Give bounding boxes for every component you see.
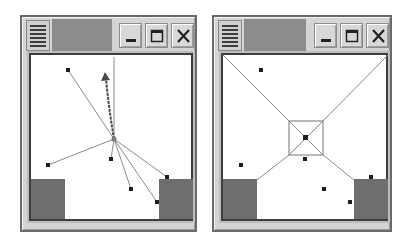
minimize-button[interactable] xyxy=(314,23,337,48)
center-point[interactable] xyxy=(303,135,308,140)
obstacle-block-right xyxy=(159,179,193,219)
minimize-icon xyxy=(120,24,143,49)
window-title[interactable] xyxy=(244,19,306,52)
title-bar[interactable] xyxy=(25,19,192,52)
data-point[interactable] xyxy=(165,175,169,179)
link-line xyxy=(68,70,114,139)
menu-line xyxy=(30,45,46,47)
arrow-head-icon xyxy=(101,72,110,81)
close-icon xyxy=(172,24,195,49)
minimize-icon xyxy=(315,24,338,49)
menu-line xyxy=(222,45,238,47)
window-menu-button[interactable] xyxy=(26,20,50,51)
close-button[interactable] xyxy=(366,23,389,48)
data-point[interactable] xyxy=(46,163,50,167)
menu-lines-icon xyxy=(30,25,46,27)
maximize-icon xyxy=(341,24,364,49)
menu-line xyxy=(30,29,46,31)
menu-line xyxy=(222,33,238,35)
link-line xyxy=(114,139,167,177)
window-title[interactable] xyxy=(52,19,112,52)
data-point[interactable] xyxy=(322,187,326,191)
menu-lines-icon xyxy=(222,25,238,27)
arrow-line xyxy=(106,79,114,139)
menu-line xyxy=(222,41,238,43)
data-point[interactable] xyxy=(109,157,113,161)
data-point[interactable] xyxy=(129,187,133,191)
link-line xyxy=(114,139,157,202)
close-button[interactable] xyxy=(171,23,194,48)
canvas-area[interactable] xyxy=(221,53,388,221)
menu-line xyxy=(222,37,238,39)
perspective-line xyxy=(257,155,289,180)
minimize-button[interactable] xyxy=(119,23,142,48)
perspective-line xyxy=(323,55,388,121)
hub-point[interactable] xyxy=(112,137,117,142)
focus-view[interactable] xyxy=(223,55,390,223)
close-icon xyxy=(367,24,390,49)
window-menu-button[interactable] xyxy=(218,20,242,51)
link-line xyxy=(48,139,114,165)
data-point[interactable] xyxy=(66,68,70,72)
data-point[interactable] xyxy=(303,157,307,161)
data-point[interactable] xyxy=(155,200,159,204)
canvas-area[interactable] xyxy=(29,53,193,221)
perspective-line xyxy=(223,55,289,121)
maximize-button[interactable] xyxy=(145,23,168,48)
radial-graph[interactable] xyxy=(31,55,195,223)
link-line xyxy=(111,139,114,159)
data-point[interactable] xyxy=(239,163,243,167)
obstacle-block-left xyxy=(223,179,257,219)
obstacle-block-right xyxy=(354,179,388,219)
window-right[interactable] xyxy=(212,15,392,232)
menu-line xyxy=(30,37,46,39)
menu-line xyxy=(222,29,238,31)
maximize-button[interactable] xyxy=(340,23,363,48)
title-bar[interactable] xyxy=(217,19,387,52)
menu-line xyxy=(30,33,46,35)
maximize-icon xyxy=(146,24,169,49)
menu-line xyxy=(30,41,46,43)
data-point[interactable] xyxy=(369,175,373,179)
obstacle-block-left xyxy=(31,179,65,219)
perspective-line xyxy=(323,155,354,180)
window-left[interactable] xyxy=(20,15,197,232)
data-point[interactable] xyxy=(348,200,352,204)
data-point[interactable] xyxy=(259,68,263,72)
link-line xyxy=(114,139,131,189)
